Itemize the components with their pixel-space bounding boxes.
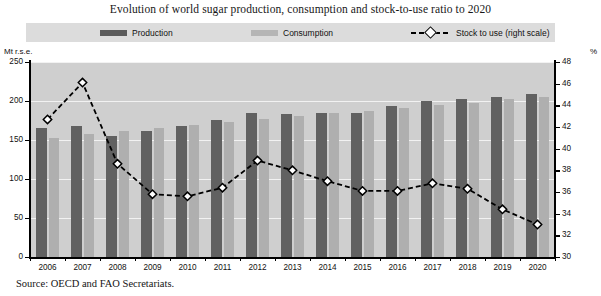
y-axis-left-tick-label: 0 xyxy=(0,252,23,261)
x-axis-tick xyxy=(520,257,521,261)
stock-to-use-marker xyxy=(183,192,191,200)
x-axis-tick-label: 2020 xyxy=(518,263,558,272)
x-axis-tick-label: 2008 xyxy=(98,263,138,272)
legend-swatch-consumption-icon xyxy=(251,30,278,36)
stock-to-use-line xyxy=(30,62,555,257)
x-axis-tick xyxy=(380,257,381,261)
y-axis-right-tick-label: 30 xyxy=(562,252,588,261)
y-axis-right-tick xyxy=(556,170,560,171)
legend-item-production: Production xyxy=(100,23,173,42)
stock-to-use-marker xyxy=(323,177,331,185)
x-axis-tick xyxy=(275,257,276,261)
y-axis-left-tick xyxy=(25,140,29,141)
legend-label-production: Production xyxy=(132,28,173,38)
y-axis-right-tick-label: 40 xyxy=(562,144,588,153)
x-axis-tick-label: 2007 xyxy=(63,263,103,272)
x-axis-tick xyxy=(450,257,451,261)
chart-legend: Production Consumption Stock to use (rig… xyxy=(26,23,555,42)
x-axis-tick-label: 2013 xyxy=(273,263,313,272)
legend-label-consumption: Consumption xyxy=(283,28,333,38)
x-axis-tick-label: 2009 xyxy=(133,263,173,272)
x-axis-tick-label: 2018 xyxy=(448,263,488,272)
y-axis-left-tick-label: 150 xyxy=(0,135,23,144)
x-axis-tick-label: 2006 xyxy=(28,263,68,272)
stock-to-use-marker xyxy=(358,187,366,195)
x-axis-tick-label: 2019 xyxy=(483,263,523,272)
chart-figure: Evolution of world sugar production, con… xyxy=(0,0,601,296)
legend-swatch-production-icon xyxy=(100,30,127,36)
y-axis-right-caption: % xyxy=(590,47,597,56)
x-axis-tick xyxy=(100,257,101,261)
y-axis-right-tick xyxy=(556,235,560,236)
y-axis-left-tick-label: 200 xyxy=(0,96,23,105)
x-axis-tick xyxy=(65,257,66,261)
y-axis-right-tick-label: 32 xyxy=(562,230,588,239)
x-axis-tick xyxy=(415,257,416,261)
x-axis-tick-label: 2012 xyxy=(238,263,278,272)
y-axis-right-tick xyxy=(556,257,560,258)
stock-to-use-marker xyxy=(498,205,506,213)
x-axis-tick xyxy=(30,257,31,261)
y-axis-right-tick xyxy=(556,192,560,193)
source-note: Source: OECD and FAO Secretariats. xyxy=(16,278,174,289)
stock-to-use-marker xyxy=(148,190,156,198)
x-axis-tick xyxy=(555,257,556,261)
x-axis-tick xyxy=(135,257,136,261)
y-axis-left-tick xyxy=(25,218,29,219)
legend-item-consumption: Consumption xyxy=(251,23,333,42)
y-axis-left-tick-label: 100 xyxy=(0,174,23,183)
stock-to-use-line-layer xyxy=(30,62,555,257)
y-axis-right-tick-label: 42 xyxy=(562,122,588,131)
y-axis-right-tick xyxy=(556,62,560,63)
x-axis-tick xyxy=(240,257,241,261)
y-axis-left-tick xyxy=(25,179,29,180)
y-axis-right-tick xyxy=(556,84,560,85)
legend-swatch-stock-to-use-icon xyxy=(411,28,451,37)
stock-to-use-marker xyxy=(393,187,401,195)
y-axis-right-tick xyxy=(556,105,560,106)
stock-to-use-marker xyxy=(428,179,436,187)
y-axis-right-tick xyxy=(556,149,560,150)
stock-to-use-marker xyxy=(288,166,296,174)
x-axis-tick xyxy=(170,257,171,261)
x-axis-tick-label: 2010 xyxy=(168,263,208,272)
y-axis-left-tick xyxy=(25,62,29,63)
y-axis-right-tick-label: 44 xyxy=(562,100,588,109)
x-axis-tick-label: 2014 xyxy=(308,263,348,272)
stock-to-use-marker xyxy=(78,78,86,86)
x-axis-tick xyxy=(485,257,486,261)
x-axis-tick-label: 2016 xyxy=(378,263,418,272)
x-axis-tick-label: 2015 xyxy=(343,263,383,272)
y-axis-right-tick-label: 48 xyxy=(562,57,588,66)
y-axis-left-tick-label: 250 xyxy=(0,57,23,66)
stock-to-use-marker xyxy=(463,185,471,193)
stock-to-use-marker xyxy=(113,160,121,168)
y-axis-left-caption: Mt r.s.e. xyxy=(4,47,32,56)
y-axis-right-tick xyxy=(556,214,560,215)
y-axis-right-tick xyxy=(556,127,560,128)
y-axis-right-tick-label: 46 xyxy=(562,79,588,88)
y-axis-right-tick-label: 34 xyxy=(562,209,588,218)
x-axis-tick xyxy=(345,257,346,261)
y-axis-right-tick-label: 36 xyxy=(562,187,588,196)
x-axis-line xyxy=(29,257,556,259)
y-axis-right-tick-label: 38 xyxy=(562,165,588,174)
y-axis-left-tick xyxy=(25,101,29,102)
x-axis-tick-label: 2011 xyxy=(203,263,243,272)
x-axis-tick xyxy=(310,257,311,261)
legend-item-stock-to-use: Stock to use (right scale) xyxy=(411,23,550,42)
legend-label-stock-to-use: Stock to use (right scale) xyxy=(456,28,550,38)
x-axis-tick xyxy=(205,257,206,261)
y-axis-left-tick xyxy=(25,257,29,258)
x-axis-tick-label: 2017 xyxy=(413,263,453,272)
stock-to-use-marker xyxy=(533,220,541,228)
y-axis-left-tick-label: 50 xyxy=(0,213,23,222)
chart-title: Evolution of world sugar production, con… xyxy=(0,3,601,15)
